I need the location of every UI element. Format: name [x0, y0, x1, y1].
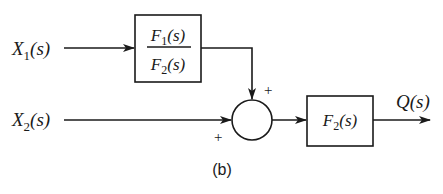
block2-transfer-function: F2(s) [307, 96, 373, 146]
sum-sign-top: + [264, 82, 272, 98]
sum-sign-left: + [214, 129, 222, 145]
block1-transfer-function: F1(s) F2(s) [135, 15, 201, 82]
input-x1-label: X1(s) [11, 38, 50, 63]
summing-junction [232, 100, 272, 140]
block1-numerator: F1(s) [150, 26, 186, 48]
arrow-block1-to-sum [201, 48, 252, 99]
input-x2-label: X2(s) [11, 109, 50, 134]
block2-label: F2(s) [322, 111, 358, 133]
figure-caption: (b) [212, 161, 232, 178]
output-q-label: Q(s) [396, 91, 430, 113]
block-diagram: X1(s) F1(s) F2(s) + X2(s) + F2(s) Q(s) ( [0, 0, 443, 194]
block1-denominator: F2(s) [150, 55, 186, 77]
